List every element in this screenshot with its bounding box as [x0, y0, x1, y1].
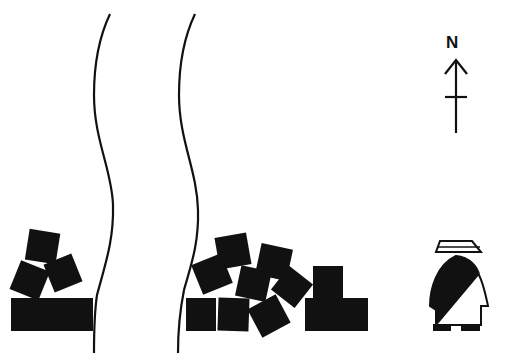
- diagram-svg: [0, 0, 505, 357]
- east-block-bottom-tilt: [247, 294, 290, 337]
- diagram-canvas: N: [0, 0, 505, 357]
- west-base-slab: [11, 298, 93, 331]
- west-block-left: [10, 260, 50, 300]
- east-bank-blocks: [186, 232, 368, 337]
- person-icon: [430, 241, 488, 331]
- east-base-block-1: [186, 298, 216, 331]
- river-west-bank-line: [94, 14, 113, 353]
- figure-foot-right: [461, 324, 480, 331]
- west-block-top: [25, 229, 60, 264]
- west-bank-blocks: [10, 229, 93, 331]
- east-l-stack-base: [305, 298, 368, 331]
- east-l-stack-top: [313, 266, 343, 299]
- north-arrow-icon: [445, 60, 467, 133]
- river: [94, 14, 198, 353]
- east-base-block-2: [217, 297, 249, 331]
- east-block-top: [214, 232, 251, 269]
- compass-north-label: N: [446, 33, 458, 53]
- figure-foot-left: [433, 324, 451, 331]
